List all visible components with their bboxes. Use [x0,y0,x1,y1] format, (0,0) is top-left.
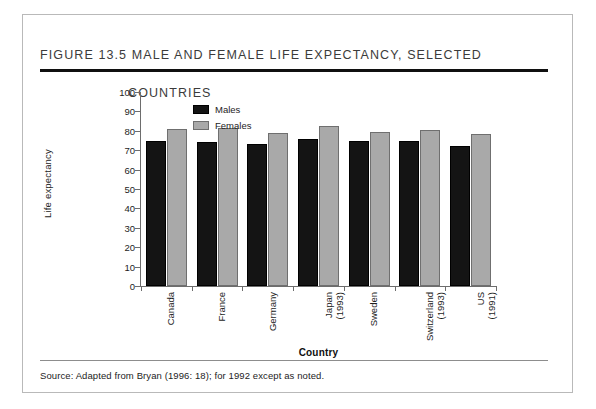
bar-males [298,139,318,286]
bar-males [349,141,369,287]
legend-label-males: Males [215,104,240,115]
y-axis-tick-label: 70 [97,145,135,156]
x-axis-tick-mark [242,286,243,291]
bar-group [395,92,446,286]
x-axis-tick-label: Sweden [369,292,380,326]
x-axis-tick-label: Japan (1993) [324,292,345,319]
y-axis-tick-label: 50 [97,184,135,195]
bar-group [445,92,496,286]
x-axis-tick-mark [192,286,193,291]
x-axis-labels: CanadaFranceGermanyJapan (1993)SwedenSwi… [141,292,496,354]
x-axis-tick-label: US (1991) [476,292,497,319]
x-axis-tick-mark [293,286,294,291]
y-axis-tick-label: 60 [97,164,135,175]
bar-group [141,92,192,286]
y-axis-tick-label: 0 [97,281,135,292]
x-axis-tick-mark [445,286,446,291]
x-axis-line [140,286,496,287]
x-axis-tick-mark [141,286,142,291]
bar-females [167,129,187,286]
bar-males [146,141,166,287]
bar-females [319,126,339,286]
bar-males [197,142,217,286]
legend-swatch-males-icon [193,105,209,114]
bar-males [399,141,419,286]
y-axis-tick-label: 40 [97,203,135,214]
y-axis-tick-label: 90 [97,106,135,117]
chart-plot-area: Life expectancy 0102030405060708090100 C… [23,15,574,394]
y-axis-title: Life expectancy [42,129,53,239]
x-axis-tick-mark [496,286,497,291]
legend-swatch-females-icon [193,121,209,130]
bar-females [268,133,288,286]
source-divider [40,360,548,361]
source-note: Source: Adapted from Bryan (1996: 18); f… [40,370,324,381]
bar-females [370,132,390,286]
x-axis-tick-label: Germany [268,292,279,331]
y-axis-tick-label: 80 [97,125,135,136]
legend-item-males: Males [193,102,251,116]
y-axis-tick-label: 30 [97,222,135,233]
x-axis-tick-label: France [217,292,228,322]
bar-females [420,130,440,286]
x-axis-tick-label: Canada [166,292,177,325]
bar-group [293,92,344,286]
bar-group [344,92,395,286]
chart-legend: Males Females [193,102,251,134]
x-axis-tick-label: Switzerland (1993) [425,292,446,341]
y-axis-tick-label: 10 [97,261,135,272]
y-axis-tick-label: 100 [97,87,135,98]
bar-females [218,128,238,286]
bar-females [471,134,491,286]
x-axis-tick-mark [395,286,396,291]
bar-males [450,146,470,286]
x-axis-title: Country [141,347,496,358]
bar-males [247,144,267,286]
y-axis-tick-label: 20 [97,242,135,253]
x-axis-tick-mark [344,286,345,291]
legend-item-females: Females [193,118,251,132]
figure-frame: Figure 13.5 Male and Female Life Expecta… [22,14,573,393]
legend-label-females: Females [215,120,251,131]
